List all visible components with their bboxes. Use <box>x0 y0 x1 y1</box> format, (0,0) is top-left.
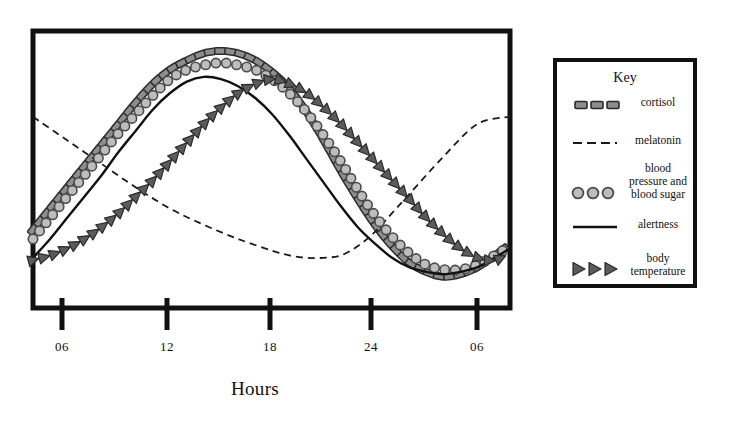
fine-dashed-line-swatch-icon <box>565 134 623 152</box>
bp-sugar-marker <box>352 183 361 192</box>
bp-sugar-marker <box>48 210 57 219</box>
bp-sugar-marker <box>141 98 150 107</box>
bp-sugar-marker <box>54 202 63 211</box>
x-tick-label: 06 <box>457 339 497 355</box>
bp-sugar-marker <box>87 162 96 171</box>
bp-sugar-marker <box>411 254 420 263</box>
bp-sugar-marker <box>163 76 172 85</box>
bp-sugar-marker <box>324 138 333 147</box>
series-layer <box>27 48 510 281</box>
bp-sugar-marker <box>181 66 190 75</box>
bp-sugar-marker <box>381 225 390 234</box>
bp-sugar-marker <box>403 247 412 256</box>
legend-item-label: melatonin <box>625 134 691 147</box>
bp-sugar-marker <box>120 121 129 130</box>
bp-sugar-marker <box>312 121 321 130</box>
alertness-line <box>33 77 510 274</box>
bp-sugar-marker <box>232 60 241 69</box>
bp-sugar-marker <box>363 200 372 209</box>
bp-sugar-marker <box>306 113 315 122</box>
bp-sugar-marker <box>330 147 339 156</box>
bp-sugar-marker <box>293 97 302 106</box>
series-blood-pressure-and-blood-sugar <box>28 58 507 274</box>
bp-sugar-marker <box>388 233 397 242</box>
bp-sugar-marker <box>155 83 164 92</box>
bp-sugar-marker <box>211 58 220 67</box>
bp-sugar-marker <box>100 145 109 154</box>
bp-sugar-marker <box>94 153 103 162</box>
x-tick-label: 24 <box>351 339 391 355</box>
bp-sugar-marker <box>346 174 355 183</box>
bp-sugar-marker <box>28 234 37 243</box>
bp-sugar-marker <box>430 263 439 272</box>
bp-sugar-marker <box>375 217 384 226</box>
legend-item-label: alertness <box>625 218 691 231</box>
chart-root: 0612182406 Hours Key cortisolmelatoninbl… <box>0 0 729 423</box>
bp-sugar-marker <box>61 194 70 203</box>
bp-sugar-marker <box>357 191 366 200</box>
bp-sugar-marker <box>396 240 405 249</box>
bp-sugar-marker <box>127 114 136 123</box>
legend-box: Key cortisolmelatoninbloodpressure andbl… <box>553 58 697 288</box>
circle-swatch-icon <box>565 184 623 202</box>
bp-sugar-marker <box>242 62 251 71</box>
x-tick-label: 12 <box>147 339 187 355</box>
bp-sugar-marker <box>191 62 200 71</box>
bp-sugar-marker <box>74 178 83 187</box>
bp-sugar-marker <box>300 105 309 114</box>
legend-item-label: bloodpressure andblood sugar <box>625 162 691 201</box>
triangle-swatch-icon <box>565 260 623 278</box>
bp-sugar-marker <box>68 186 77 195</box>
x-tick-label: 06 <box>42 339 82 355</box>
bp-sugar-marker <box>335 156 344 165</box>
legend-inner: Key cortisolmelatoninbloodpressure andbl… <box>557 62 693 284</box>
bp-sugar-marker <box>341 165 350 174</box>
solid-line-swatch-icon <box>565 218 623 236</box>
bp-sugar-marker <box>172 70 181 79</box>
series-alertness <box>33 77 510 274</box>
bp-sugar-marker <box>420 259 429 268</box>
bp-sugar-marker <box>35 226 44 235</box>
bp-sugar-marker <box>201 60 210 69</box>
bp-sugar-marker <box>148 91 157 100</box>
bp-sugar-marker <box>41 218 50 227</box>
bp-sugar-marker <box>107 137 116 146</box>
x-tick-label: 18 <box>250 339 290 355</box>
bp-sugar-marker <box>252 66 261 75</box>
bp-sugar-marker <box>318 130 327 139</box>
legend-item-label: cortisol <box>625 96 691 109</box>
legend-item-label: bodytemperature <box>625 252 691 278</box>
bp-sugar-marker <box>113 129 122 138</box>
x-axis-ticks <box>62 298 477 330</box>
legend-title: Key <box>557 70 693 86</box>
bp-sugar-marker <box>369 209 378 218</box>
dashed-square-swatch-icon <box>565 96 623 114</box>
bp-sugar-marker <box>222 58 231 67</box>
series-body-temperature <box>27 73 508 266</box>
x-axis-title: Hours <box>195 378 315 400</box>
bp-sugar-marker <box>81 170 90 179</box>
bp-sugar-marker <box>134 106 143 115</box>
